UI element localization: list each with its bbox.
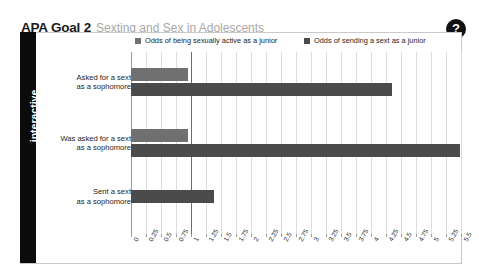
category-label: Asked for a sextas a sophomore: [23, 73, 131, 91]
x-tick-label: 5: [432, 236, 440, 243]
x-axis: 00.250.50.7511.251.51.7522.252.52.7533.2…: [131, 234, 461, 263]
gridline: [401, 52, 402, 234]
category-label-line: as a sophomore: [23, 143, 131, 152]
gridline: [326, 52, 327, 234]
x-tick-label: 4: [372, 236, 380, 243]
gridline: [356, 52, 357, 234]
gridline: [251, 52, 252, 234]
category-label-line: Was asked for a sext: [23, 134, 131, 143]
gridline: [371, 52, 372, 234]
gridline: [431, 52, 432, 234]
category-label: Was asked for a sextas a sophomore: [23, 134, 131, 152]
x-tick-label: 0: [132, 236, 140, 243]
gridline: [221, 52, 222, 234]
legend-label: Odds of sending a sext as a junior: [314, 36, 426, 45]
legend-swatch-icon: [135, 38, 141, 44]
bar[interactable]: [131, 144, 460, 157]
legend-item[interactable]: Odds of sending a sext as a junior: [304, 36, 426, 45]
x-tick-label: 3: [312, 236, 320, 243]
gridline: [266, 52, 267, 234]
bar[interactable]: [131, 68, 188, 81]
bar[interactable]: [131, 190, 214, 203]
gridline: [281, 52, 282, 234]
x-tick-label: 5.5: [462, 231, 473, 242]
x-tick-label: 2: [252, 236, 260, 243]
gridline: [311, 52, 312, 234]
gridline: [386, 52, 387, 234]
gridline: [341, 52, 342, 234]
x-tick-label: 1: [192, 236, 200, 243]
legend-item[interactable]: Odds of being sexually active as a junio…: [135, 36, 277, 45]
gridline: [206, 52, 207, 234]
bar[interactable]: [131, 129, 188, 142]
gridline: [446, 52, 447, 234]
bar[interactable]: [131, 83, 392, 96]
page-header: APA Goal 2 Sexting and Sex in Adolescent…: [0, 8, 479, 34]
gridline: [191, 52, 192, 234]
gridline: [461, 52, 462, 234]
category-label: Sent a sextas a sophomore: [23, 187, 131, 205]
category-label-line: Sent a sext: [23, 187, 131, 196]
gridline: [416, 52, 417, 234]
category-label-line: as a sophomore: [23, 197, 131, 206]
legend-swatch-icon: [304, 38, 310, 44]
gridline: [296, 52, 297, 234]
bar-chart: Asked for a sextas a sophomoreWas asked …: [36, 52, 462, 263]
chart-legend: Odds of being sexually active as a junio…: [36, 36, 462, 50]
category-label-line: as a sophomore: [23, 82, 131, 91]
gridline: [236, 52, 237, 234]
category-label-line: Asked for a sext: [23, 73, 131, 82]
legend-label: Odds of being sexually active as a junio…: [145, 36, 277, 45]
